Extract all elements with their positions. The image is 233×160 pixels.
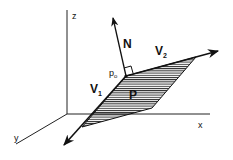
vector-v1-label: V1 xyxy=(90,82,102,97)
point-p0-label: po xyxy=(109,68,118,79)
y-axis-label: y xyxy=(14,133,19,143)
plane-normal-diagram: z x y P N V2 V1 po xyxy=(0,0,233,160)
point-p0 xyxy=(124,74,127,77)
y-axis xyxy=(16,114,67,144)
normal-vector-label: N xyxy=(123,37,132,51)
plane-label: P xyxy=(129,88,137,102)
z-axis-label: z xyxy=(72,11,77,21)
vector-v2-label: V2 xyxy=(155,44,167,59)
x-axis-label: x xyxy=(198,120,203,130)
